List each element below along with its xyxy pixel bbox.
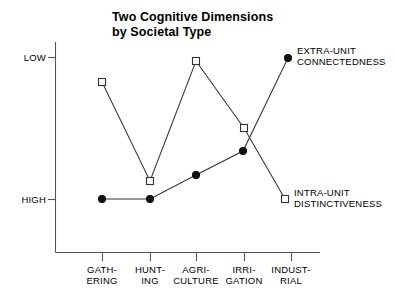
- data-point-extra-irrigation: [239, 147, 246, 154]
- data-point-intra-gathering: [99, 79, 106, 86]
- data-point-intra-agriculture: [193, 58, 200, 65]
- data-point-intra-irrigation: [241, 125, 248, 132]
- series-label-intra-unit-distinctiveness-line2: DISTINCTIVENESS: [294, 198, 382, 210]
- data-point-extra-industrial: [284, 54, 291, 61]
- data-point-extra-hunting: [146, 195, 153, 202]
- series-label-extra-unit-connectedness-line2: CONNECTEDNESS: [297, 56, 386, 68]
- y-axis-label-high: HIGH: [0, 194, 46, 205]
- y-axis-label-low: LOW: [0, 52, 46, 63]
- x-axis-label-industrial-line1: INDUST-: [260, 264, 322, 275]
- data-point-extra-gathering: [98, 195, 105, 202]
- chart-figure: Two Cognitive Dimensions by Societal Typ…: [0, 0, 394, 295]
- series-label-intra-unit-distinctiveness-line1: INTRA-UNIT: [294, 187, 350, 199]
- series-label-extra-unit-connectedness-line1: EXTRA-UNIT: [297, 45, 356, 57]
- data-point-intra-hunting: [147, 178, 154, 185]
- data-point-intra-industrial: [282, 196, 289, 203]
- data-point-extra-agriculture: [192, 171, 199, 178]
- x-axis-label-industrial-line2: RIAL: [260, 275, 322, 286]
